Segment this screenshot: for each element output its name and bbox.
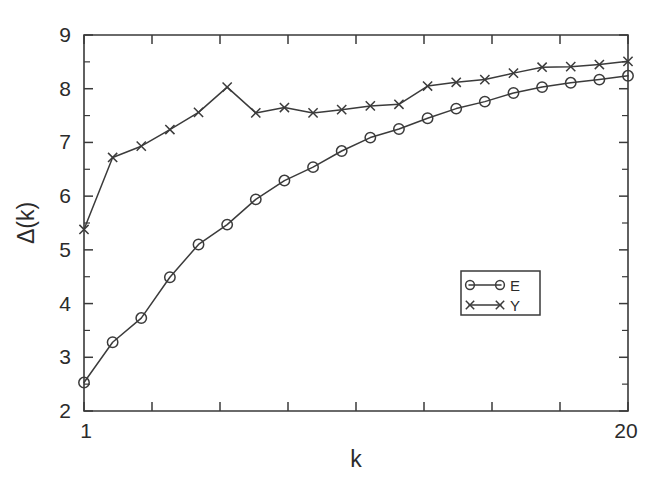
legend-label-E: E bbox=[510, 277, 520, 294]
plot-frame bbox=[84, 35, 628, 411]
y-tick-label: 6 bbox=[59, 184, 71, 207]
chart-legend: EY bbox=[461, 271, 540, 315]
delta-k-line-chart: 23456789120kΔ(k)EY bbox=[0, 0, 669, 479]
y-tick-label: 7 bbox=[59, 130, 71, 153]
chart-figure: 23456789120kΔ(k)EY bbox=[0, 0, 669, 479]
series-line-E bbox=[84, 76, 628, 383]
legend-label-Y: Y bbox=[510, 297, 520, 314]
y-axis-title: Δ(k) bbox=[13, 202, 39, 244]
series-E bbox=[79, 71, 633, 388]
y-tick-label: 5 bbox=[59, 238, 71, 261]
y-tick-label: 9 bbox=[59, 23, 71, 46]
x-tick-label-min: 1 bbox=[80, 419, 92, 442]
data-point-marker bbox=[223, 83, 232, 92]
y-tick-label: 2 bbox=[59, 399, 71, 422]
x-axis-title: k bbox=[350, 446, 362, 472]
y-tick-label: 4 bbox=[59, 292, 71, 315]
data-point-marker bbox=[194, 108, 203, 117]
series-Y bbox=[79, 57, 632, 234]
y-tick-label: 3 bbox=[59, 345, 71, 368]
data-point-marker bbox=[108, 153, 117, 162]
data-point-marker bbox=[165, 125, 174, 134]
x-tick-label-max: 20 bbox=[614, 419, 637, 442]
data-point-marker bbox=[137, 142, 146, 151]
y-tick-label: 8 bbox=[59, 77, 71, 100]
